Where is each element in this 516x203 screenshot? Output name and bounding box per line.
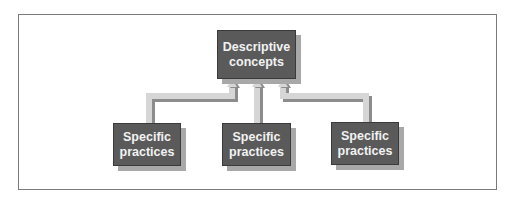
node-specific-practices-3: Specific practices [331, 122, 399, 165]
node-label-line2: practices [338, 144, 393, 159]
node-label-line2: practices [229, 145, 284, 160]
node-label-line2: concepts [223, 55, 290, 70]
node-specific-practices-2: Specific practices [222, 123, 291, 166]
arrow-right [278, 79, 369, 122]
node-label-line2: practices [120, 145, 175, 160]
node-label-line1: Specific [229, 130, 284, 145]
node-label-line1: Specific [120, 130, 175, 145]
arrow-left [149, 79, 240, 123]
arrow-middle [252, 79, 265, 123]
node-descriptive-concepts: Descriptive concepts [217, 30, 296, 79]
node-label-line1: Descriptive [223, 40, 290, 55]
node-label-line1: Specific [338, 129, 393, 144]
node-specific-practices-1: Specific practices [113, 123, 181, 166]
